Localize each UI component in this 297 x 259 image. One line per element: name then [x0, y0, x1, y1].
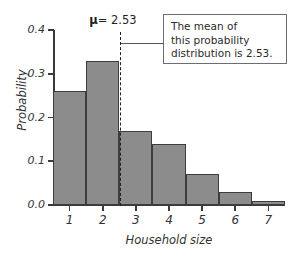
mean-vertical-dashed-line [120, 32, 121, 206]
bar-7 [252, 201, 285, 205]
bar-1 [53, 91, 86, 205]
callout-line-2: this probability [171, 34, 279, 48]
callout-box: The mean of this probability distributio… [163, 14, 287, 64]
callout-line-3: distribution is 2.53. [171, 47, 279, 61]
callout-leader-line [121, 43, 163, 44]
bar-6 [219, 192, 252, 205]
bar-2 [86, 61, 119, 205]
mean-label: μ= 2.53 [89, 13, 136, 27]
callout-line-1: The mean of [171, 20, 279, 34]
bar-3 [119, 131, 152, 205]
mu-symbol: μ [89, 13, 97, 27]
callout-text: The mean of this probability distributio… [171, 20, 279, 61]
mean-value-text: = 2.53 [98, 13, 137, 27]
probability-distribution-chart: 0.00.10.20.30.4 1234567 Probability Hous… [0, 0, 297, 259]
bar-4 [152, 144, 185, 205]
bar-5 [186, 174, 219, 205]
